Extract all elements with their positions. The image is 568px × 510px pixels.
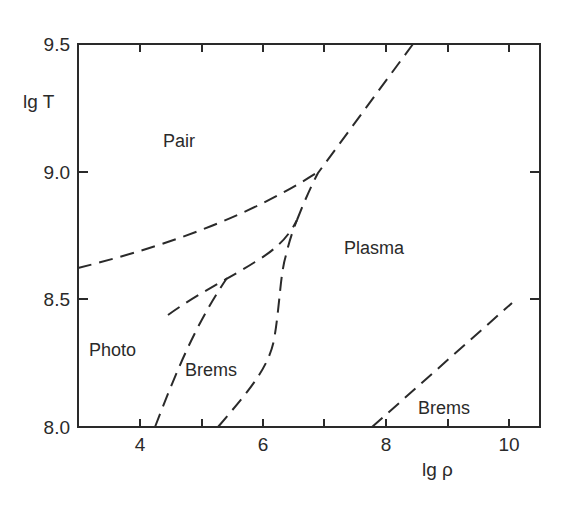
y-axis-title: lg T [23,91,55,112]
x-tick-label: 4 [135,434,146,455]
x-tick-label: 10 [498,434,519,455]
chart: 9.5 9.0 8.5 8.0 4 6 8 10 lg T lg ρ Pair … [0,0,568,510]
region-label-brems-low: Brems [185,360,237,380]
region-label-photo: Photo [89,340,136,360]
curve-pair-plasma-boundary [297,44,413,220]
region-label-plasma: Plasma [344,238,405,258]
y-tick-label: 9.5 [44,34,70,55]
x-tick-label: 8 [381,434,392,455]
curve-brems-plasma-boundary [218,220,297,427]
region-label-brems-high: Brems [418,398,470,418]
y-tick-label: 8.0 [44,417,70,438]
region-label-pair: Pair [163,131,195,151]
x-tick-label: 6 [258,434,269,455]
x-axis-title: lg ρ [422,459,453,480]
curve-pair-boundary [78,172,318,268]
y-axis-ticks-right [530,172,540,299]
y-tick-label: 8.5 [44,289,70,310]
x-axis-ticks-bottom [140,419,509,427]
plot-frame [78,44,540,427]
y-tick-label: 9.0 [44,162,70,183]
x-axis-ticks-top [140,44,509,52]
y-axis-ticks-left [78,172,88,299]
